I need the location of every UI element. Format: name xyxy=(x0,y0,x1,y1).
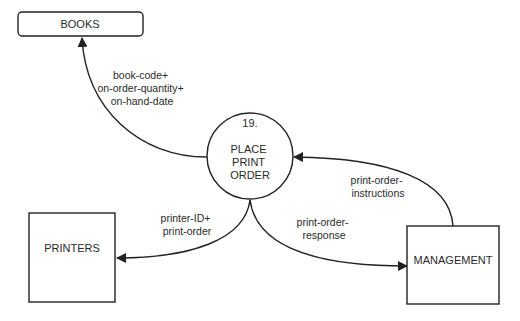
data-flow-diagram: book-code+ on-order-quantity+ on-hand-da… xyxy=(0,0,520,321)
external-entity-printers[interactable]: PRINTERS xyxy=(29,213,115,302)
external-entity-management[interactable]: MANAGEMENT xyxy=(407,226,499,304)
flow-to-books: book-code+ on-order-quantity+ on-hand-da… xyxy=(82,38,207,157)
books-label: BOOKS xyxy=(60,18,99,30)
flow-to-books-label: book-code+ on-order-quantity+ on-hand-da… xyxy=(97,69,186,107)
data-store-books[interactable]: BOOKS xyxy=(18,12,143,36)
printers-label: PRINTERS xyxy=(44,242,100,254)
process-number: 19. xyxy=(242,117,257,129)
flow-from-management-label: print-order- instructions xyxy=(351,174,406,199)
flow-to-management: print-order- response xyxy=(250,200,407,266)
process-place-print-order[interactable]: 19. PLACE PRINT ORDER xyxy=(207,113,293,199)
flow-to-printers: printer-ID+ print-order xyxy=(117,200,250,258)
management-label: MANAGEMENT xyxy=(414,254,493,266)
flow-to-printers-label: printer-ID+ print-order xyxy=(161,212,214,237)
printers-box xyxy=(29,213,115,302)
flow-to-management-label: print-order- response xyxy=(297,216,352,241)
process-label: PLACE PRINT ORDER xyxy=(230,143,270,181)
